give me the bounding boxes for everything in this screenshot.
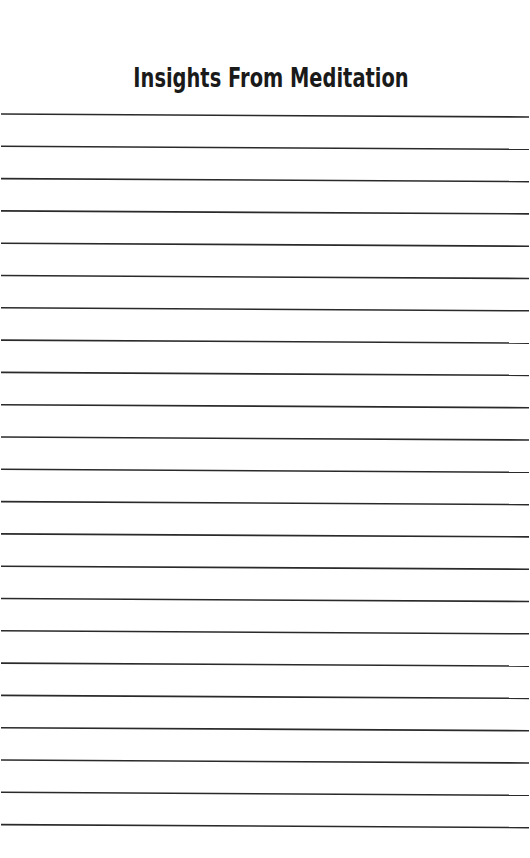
ruled-line <box>1 825 529 828</box>
ruled-line <box>1 663 529 666</box>
ruled-line <box>1 469 529 472</box>
ruled-line <box>1 276 529 279</box>
ruled-line <box>1 599 529 602</box>
ruled-line <box>1 372 529 375</box>
ruled-line <box>1 728 529 731</box>
ruled-line <box>1 566 529 569</box>
ruled-line <box>1 179 529 182</box>
journal-page: Insights From Meditation <box>0 0 530 858</box>
ruled-line <box>1 308 529 311</box>
ruled-line <box>1 631 529 634</box>
ruled-line <box>1 405 529 408</box>
ruled-line <box>1 792 529 795</box>
ruled-line <box>1 146 529 149</box>
ruled-line <box>1 502 529 505</box>
ruled-line <box>1 695 529 698</box>
ruled-line <box>1 437 529 440</box>
ruled-line <box>1 760 529 763</box>
ruled-line <box>1 534 529 537</box>
ruled-line <box>1 211 529 214</box>
ruled-lines <box>0 0 530 858</box>
ruled-line <box>1 340 529 343</box>
ruled-line <box>1 114 529 117</box>
ruled-line <box>1 243 529 246</box>
